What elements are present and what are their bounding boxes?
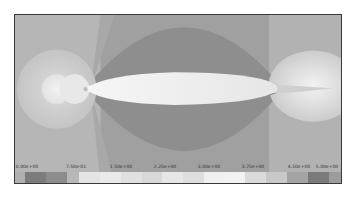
colorbar-tick-label: 7.50e-01	[66, 164, 86, 169]
colorbar-tick-label: 0.00e+00	[16, 164, 38, 169]
colorbar-tick-label: 5.00e+00	[316, 164, 338, 169]
plot-frame: 0.00e+00 7.50e-01 1.50e+00 2.25e+00 3.00…	[14, 14, 342, 184]
colorbar-tick-label: 2.25e+00	[154, 164, 176, 169]
colorbar-tick-label: 1.50e+00	[110, 164, 132, 169]
colorbar	[15, 172, 341, 184]
colorbar-labels: 0.00e+00 7.50e-01 1.50e+00 2.25e+00 3.00…	[15, 164, 341, 172]
contour-plot	[15, 15, 341, 183]
stagnation-point	[83, 87, 87, 91]
colorbar-tick-label: 4.50e+00	[288, 164, 310, 169]
colorbar-tick-label: 3.75e+00	[242, 164, 264, 169]
colorbar-tick-label: 3.00e+00	[198, 164, 220, 169]
